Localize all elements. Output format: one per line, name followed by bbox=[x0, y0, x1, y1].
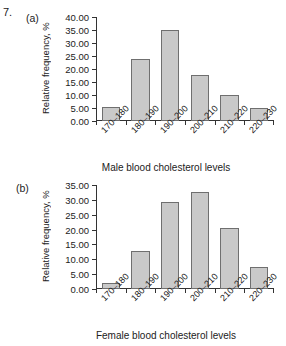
x-axis-labels-b: 170–180180–190190–200200–210210–220220–2… bbox=[96, 289, 274, 333]
y-tick-label-b: 0.00 bbox=[71, 284, 90, 295]
y-tick-label-a: 0.00 bbox=[71, 116, 90, 127]
y-tick-label-a: 40.00 bbox=[65, 12, 89, 23]
y-tick-mark-b bbox=[92, 244, 96, 245]
y-tick-mark-b bbox=[92, 274, 96, 275]
x-axis-title-b: Female blood cholesterol levels bbox=[58, 330, 274, 341]
plot-area-b: 0.005.0010.0015.0020.0025.0030.0035.00 1… bbox=[58, 185, 274, 289]
chart-panel-a: (a) Relative frequency, % 0.005.0010.001… bbox=[0, 0, 286, 180]
y-tick-label-b: 35.00 bbox=[65, 180, 89, 191]
chart-panel-b: (b) Relative frequency, % 0.005.0010.001… bbox=[0, 176, 286, 346]
y-tick-mark-b bbox=[92, 185, 96, 186]
y-axis-title-b: Relative frequency, % bbox=[40, 184, 51, 288]
y-tick-label-b: 30.00 bbox=[65, 194, 89, 205]
y-tick-label-b: 5.00 bbox=[71, 269, 90, 280]
y-tick-mark-a bbox=[92, 108, 96, 109]
y-tick-mark-a bbox=[92, 95, 96, 96]
y-tick-mark-a bbox=[92, 30, 96, 31]
y-tick-label-a: 10.00 bbox=[65, 90, 89, 101]
y-tick-label-a: 25.00 bbox=[65, 51, 89, 62]
y-tick-label-b: 20.00 bbox=[65, 224, 89, 235]
y-tick-label-b: 15.00 bbox=[65, 239, 89, 250]
y-tick-mark-b bbox=[92, 259, 96, 260]
y-tick-label-a: 20.00 bbox=[65, 64, 89, 75]
y-axis-labels-b: 0.005.0010.0015.0020.0025.0030.0035.00 bbox=[58, 185, 92, 289]
y-tick-mark-a bbox=[92, 69, 96, 70]
y-axis-labels-a: 0.005.0010.0015.0020.0025.0030.0035.0040… bbox=[58, 17, 92, 121]
y-tick-label-b: 25.00 bbox=[65, 209, 89, 220]
x-axis-labels-a: 170–180180–190190–200200–210210–220220–2… bbox=[96, 121, 274, 165]
y-tick-label-a: 30.00 bbox=[65, 38, 89, 49]
y-axis-title-a: Relative frequency, % bbox=[40, 16, 51, 120]
x-axis-title-a: Male blood cholesterol levels bbox=[58, 162, 274, 173]
y-tick-mark-a bbox=[92, 43, 96, 44]
y-tick-mark-b bbox=[92, 200, 96, 201]
bar bbox=[161, 30, 179, 121]
panel-label-b: (b) bbox=[16, 182, 29, 194]
y-tick-mark-b bbox=[92, 215, 96, 216]
y-tick-mark-b bbox=[92, 289, 96, 290]
bar bbox=[191, 192, 209, 289]
y-tick-label-a: 35.00 bbox=[65, 25, 89, 36]
figure-page: 7. (a) Relative frequency, % 0.005.0010.… bbox=[0, 0, 286, 346]
y-tick-mark-a bbox=[92, 82, 96, 83]
y-tick-label-b: 10.00 bbox=[65, 254, 89, 265]
y-tick-mark-a bbox=[92, 121, 96, 122]
y-tick-mark-b bbox=[92, 230, 96, 231]
y-tick-mark-a bbox=[92, 17, 96, 18]
y-tick-label-a: 5.00 bbox=[71, 103, 90, 114]
plot-area-a: 0.005.0010.0015.0020.0025.0030.0035.0040… bbox=[58, 17, 274, 121]
y-tick-label-a: 15.00 bbox=[65, 77, 89, 88]
panel-label-a: (a) bbox=[26, 12, 39, 24]
y-tick-mark-a bbox=[92, 56, 96, 57]
